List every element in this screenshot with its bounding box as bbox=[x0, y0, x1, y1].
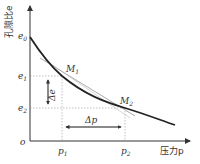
e2-label: e2 bbox=[18, 103, 27, 114]
e0-label: e0 bbox=[18, 31, 27, 42]
e-p-curve-diagram: 孔隙比e 压力p o e0 e1 e2 p1 p2 M1 M2 Δe Δp bbox=[0, 0, 200, 164]
origin-label: o bbox=[20, 137, 26, 147]
tangent-line bbox=[45, 60, 130, 118]
delta-p-label: Δp bbox=[84, 115, 97, 125]
y-axis-label: 孔隙比e bbox=[3, 5, 14, 38]
x-axis-label: 压力p bbox=[160, 145, 184, 156]
e1-label: e1 bbox=[18, 71, 27, 82]
delta-e-label: Δe bbox=[47, 89, 57, 102]
compression-curve bbox=[30, 37, 175, 125]
m1-label: M1 bbox=[65, 64, 79, 75]
p2-label: p2 bbox=[121, 146, 131, 157]
m2-label: M2 bbox=[119, 96, 133, 107]
guide-lines bbox=[30, 76, 125, 141]
p1-label: p1 bbox=[58, 146, 68, 157]
